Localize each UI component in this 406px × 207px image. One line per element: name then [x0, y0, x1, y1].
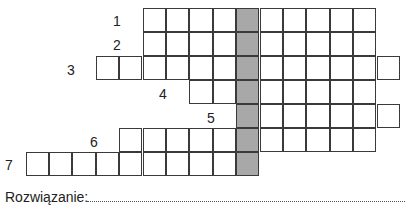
crossword-cell[interactable]: [260, 104, 283, 128]
crossword-cell[interactable]: [213, 8, 236, 32]
crossword-cell[interactable]: [143, 152, 166, 176]
clue-number-4: 4: [159, 87, 167, 101]
crossword-cell[interactable]: [189, 8, 212, 32]
crossword-cell[interactable]: [189, 152, 212, 176]
crossword-cell[interactable]: [260, 8, 283, 32]
solution-cell[interactable]: [236, 104, 259, 128]
crossword-cell[interactable]: [353, 32, 376, 56]
solution-cell[interactable]: [236, 152, 259, 176]
crossword-cell[interactable]: [353, 56, 376, 80]
crossword-cell[interactable]: [213, 152, 236, 176]
clue-number-6: 6: [90, 135, 98, 149]
crossword-cell[interactable]: [283, 8, 306, 32]
crossword-cell[interactable]: [96, 56, 119, 80]
clue-number-1: 1: [113, 14, 121, 28]
crossword-cell[interactable]: [377, 56, 400, 80]
crossword-cell[interactable]: [306, 80, 329, 104]
crossword-cell[interactable]: [330, 56, 353, 80]
crossword-cell[interactable]: [49, 152, 72, 176]
crossword-cell[interactable]: [283, 128, 306, 152]
crossword-cell[interactable]: [213, 80, 236, 104]
crossword-cell[interactable]: [283, 32, 306, 56]
crossword-cell[interactable]: [260, 56, 283, 80]
crossword-cell[interactable]: [143, 8, 166, 32]
crossword-grid: 1234567: [0, 0, 406, 180]
crossword-cell[interactable]: [166, 8, 189, 32]
solution-answer-line[interactable]: [87, 201, 405, 202]
solution-cell[interactable]: [236, 32, 259, 56]
crossword-cell[interactable]: [260, 32, 283, 56]
crossword-cell[interactable]: [283, 104, 306, 128]
solution-cell[interactable]: [236, 8, 259, 32]
clue-number-5: 5: [207, 111, 215, 125]
crossword-cell[interactable]: [119, 128, 142, 152]
crossword-cell[interactable]: [330, 32, 353, 56]
crossword-cell[interactable]: [189, 56, 212, 80]
crossword-cell[interactable]: [260, 80, 283, 104]
clue-number-3: 3: [67, 63, 75, 77]
crossword-cell[interactable]: [189, 128, 212, 152]
crossword-cell[interactable]: [353, 80, 376, 104]
crossword-cell[interactable]: [353, 104, 376, 128]
crossword-cell[interactable]: [143, 128, 166, 152]
solution-label: Rozwiązanie:: [5, 190, 88, 204]
crossword-cell[interactable]: [330, 80, 353, 104]
crossword-cell[interactable]: [166, 32, 189, 56]
crossword-cell[interactable]: [189, 80, 212, 104]
crossword-cell[interactable]: [306, 104, 329, 128]
crossword-cell[interactable]: [96, 152, 119, 176]
crossword-cell[interactable]: [283, 80, 306, 104]
crossword-cell[interactable]: [330, 104, 353, 128]
solution-cell[interactable]: [236, 128, 259, 152]
solution-cell[interactable]: [236, 80, 259, 104]
crossword-cell[interactable]: [213, 32, 236, 56]
clue-number-2: 2: [113, 38, 121, 52]
solution-cell[interactable]: [236, 56, 259, 80]
crossword-cell[interactable]: [330, 128, 353, 152]
crossword-cell[interactable]: [189, 32, 212, 56]
crossword-cell[interactable]: [26, 152, 49, 176]
crossword-cell[interactable]: [119, 56, 142, 80]
crossword-cell[interactable]: [306, 32, 329, 56]
crossword-cell[interactable]: [166, 152, 189, 176]
crossword-cell[interactable]: [143, 32, 166, 56]
crossword-cell[interactable]: [166, 128, 189, 152]
crossword-cell[interactable]: [213, 128, 236, 152]
crossword-cell[interactable]: [353, 128, 376, 152]
crossword-cell[interactable]: [213, 56, 236, 80]
crossword-cell[interactable]: [260, 128, 283, 152]
crossword-cell[interactable]: [306, 128, 329, 152]
crossword-cell[interactable]: [283, 56, 306, 80]
crossword-cell[interactable]: [72, 152, 95, 176]
clue-number-7: 7: [5, 158, 13, 172]
crossword-cell[interactable]: [306, 8, 329, 32]
crossword-cell[interactable]: [143, 56, 166, 80]
crossword-cell[interactable]: [306, 56, 329, 80]
crossword-cell[interactable]: [330, 8, 353, 32]
crossword-cell[interactable]: [353, 8, 376, 32]
crossword-cell[interactable]: [377, 104, 400, 128]
crossword-cell[interactable]: [119, 152, 142, 176]
crossword-cell[interactable]: [166, 56, 189, 80]
